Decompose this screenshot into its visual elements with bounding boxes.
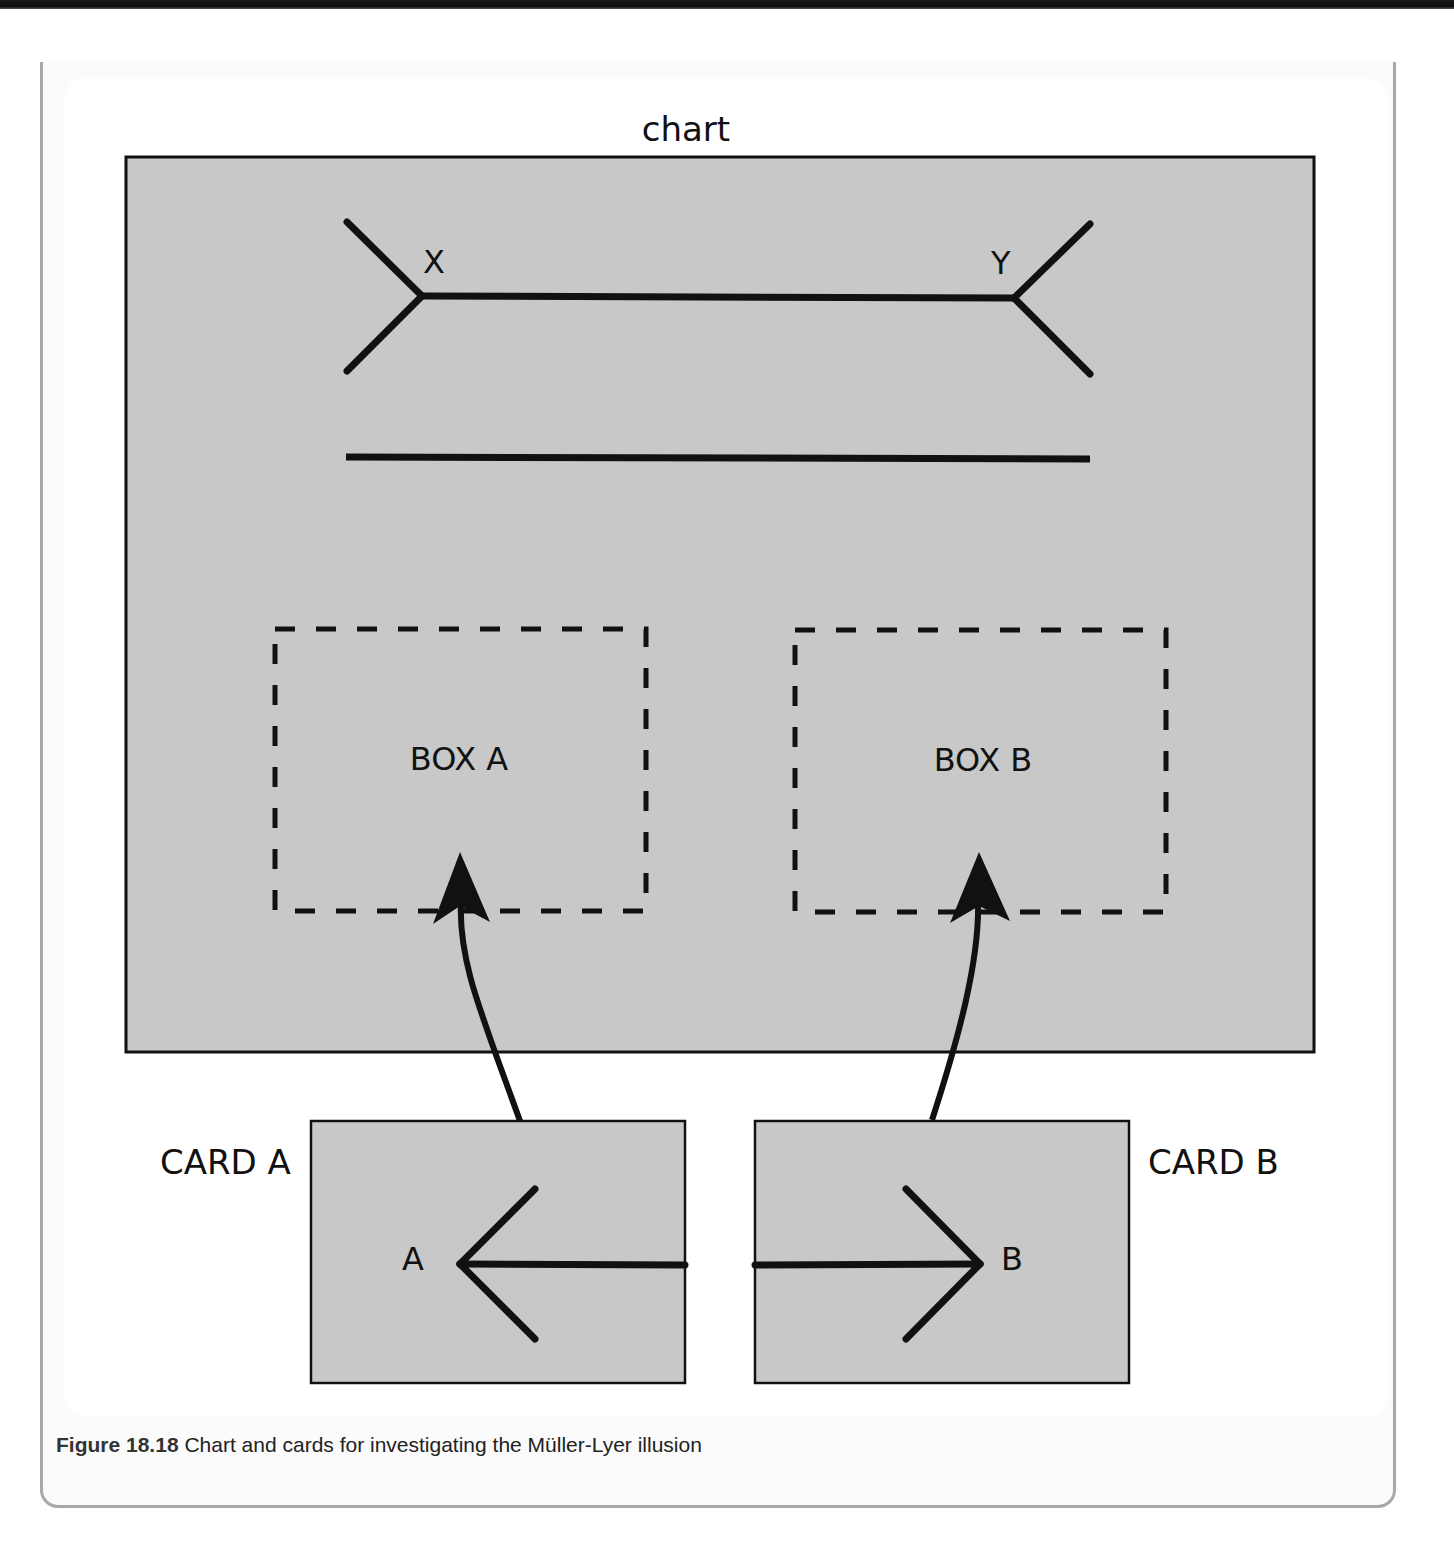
- card-a[interactable]: [311, 1121, 685, 1383]
- card-b-end-label: B: [1001, 1240, 1023, 1278]
- reference-line: [346, 457, 1090, 459]
- card-b[interactable]: [755, 1121, 1129, 1383]
- label-y: Y: [990, 244, 1011, 282]
- xy-shaft: [422, 296, 1014, 298]
- muller-lyer-diagram: chart X Y BOX A BOX B A CARD A B CARD B: [0, 0, 1454, 1544]
- figure-caption-text: Chart and cards for investigating the Mü…: [179, 1433, 702, 1456]
- figure-number: Figure 18.18: [56, 1433, 179, 1456]
- box-b-label: BOX B: [934, 741, 1033, 779]
- chart-title: chart: [642, 109, 730, 149]
- box-a-label: BOX A: [410, 740, 509, 778]
- figure-caption: Figure 18.18 Chart and cards for investi…: [56, 1433, 702, 1457]
- chart-panel: [126, 157, 1314, 1052]
- card-a-title: CARD A: [160, 1142, 291, 1182]
- card-a-end-label: A: [402, 1240, 424, 1278]
- card-b-title: CARD B: [1148, 1142, 1279, 1182]
- label-x: X: [423, 243, 445, 281]
